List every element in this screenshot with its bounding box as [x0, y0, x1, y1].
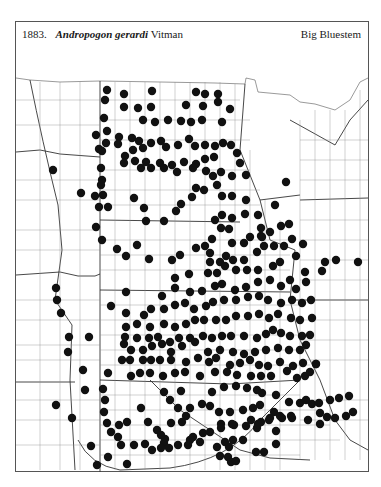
occurrence-dot: [174, 441, 182, 449]
occurrence-dot: [228, 192, 236, 200]
occurrence-dot: [172, 207, 180, 215]
occurrence-dot: [254, 211, 262, 219]
occurrence-dot: [137, 404, 145, 412]
occurrence-dot: [196, 438, 204, 446]
occurrence-dot: [321, 258, 329, 266]
occurrence-dot: [103, 86, 111, 94]
occurrence-dot: [254, 278, 262, 286]
occurrence-dot: [283, 367, 291, 375]
occurrence-dot: [262, 346, 270, 354]
occurrence-dot: [167, 419, 175, 427]
occurrence-dot: [123, 418, 131, 426]
occurrence-dot: [114, 140, 122, 148]
occurrence-dot: [99, 191, 107, 199]
occurrence-dot: [168, 161, 176, 169]
occurrence-dot: [141, 440, 149, 448]
occurrence-dot: [98, 236, 106, 244]
occurrence-dot: [225, 225, 233, 233]
occurrence-dot: [114, 433, 122, 441]
occurrence-dot: [276, 358, 284, 366]
occurrence-dot: [64, 348, 72, 356]
occurrence-dot: [218, 332, 226, 340]
occurrence-dot: [187, 118, 195, 126]
occurrence-dot: [277, 282, 285, 290]
occurrence-dot: [242, 283, 250, 291]
occurrence-dot: [139, 356, 147, 364]
occurrence-dot: [233, 149, 241, 157]
distribution-map: [0, 0, 381, 487]
occurrence-dot: [206, 249, 214, 257]
occurrence-dot: [131, 157, 139, 165]
occurrence-dot: [167, 356, 175, 364]
occurrence-dot: [299, 359, 307, 367]
occurrence-dot: [177, 200, 185, 208]
occurrence-dot: [93, 461, 101, 469]
occurrence-dot: [258, 389, 266, 397]
occurrence-dot: [232, 382, 240, 390]
occurrence-dot: [214, 90, 222, 98]
occurrence-dot: [236, 359, 244, 367]
occurrence-dot: [246, 233, 254, 241]
occurrence-dot: [349, 408, 357, 416]
occurrence-dot: [298, 299, 306, 307]
occurrence-dot: [122, 252, 130, 260]
occurrence-dot: [129, 146, 137, 154]
occurrence-dot: [292, 252, 300, 260]
occurrence-dot: [122, 309, 130, 317]
occurrence-dot: [120, 90, 128, 98]
occurrence-dot: [285, 398, 293, 406]
occurrence-dot: [103, 419, 111, 427]
occurrence-dot: [265, 314, 273, 322]
occurrence-dot: [228, 420, 236, 428]
occurrence-dot: [102, 139, 110, 147]
occurrence-dot: [120, 103, 128, 111]
occurrence-dot: [298, 332, 306, 340]
occurrence-dot: [120, 159, 128, 167]
occurrence-dot: [201, 242, 209, 250]
occurrence-dot: [136, 369, 144, 377]
occurrence-dot: [240, 350, 248, 358]
occurrence-dot: [184, 441, 192, 449]
occurrence-dot: [335, 394, 343, 402]
occurrence-dot: [225, 443, 233, 451]
occurrence-dot: [107, 428, 115, 436]
occurrence-dot: [218, 192, 226, 200]
occurrence-dot: [318, 267, 326, 275]
occurrence-dot: [201, 155, 209, 163]
occurrence-dot: [293, 374, 301, 382]
occurrence-dot: [301, 268, 309, 276]
occurrence-dot: [160, 164, 168, 172]
occurrence-dot: [146, 323, 154, 331]
occurrence-dot: [117, 441, 125, 449]
occurrence-dot: [151, 118, 159, 126]
occurrence-dot: [130, 194, 138, 202]
occurrence-dot: [120, 340, 128, 348]
occurrence-dot: [157, 444, 165, 452]
occurrence-dot: [77, 189, 85, 197]
occurrence-dot: [277, 299, 285, 307]
occurrence-dot: [178, 342, 186, 350]
occurrence-dot: [160, 320, 168, 328]
occurrence-dot: [95, 203, 103, 211]
occurrence-dot: [306, 331, 314, 339]
occurrence-dot: [139, 346, 147, 354]
occurrence-dot: [213, 443, 221, 451]
occurrence-dot: [260, 448, 268, 456]
occurrence-dot: [92, 223, 100, 231]
occurrence-dot: [191, 316, 199, 324]
occurrence-dot: [236, 159, 244, 167]
occurrence-dot: [157, 431, 165, 439]
occurrence-dot: [228, 172, 236, 180]
occurrence-dot: [139, 116, 147, 124]
occurrence-dot: [244, 312, 252, 320]
occurrence-dot: [164, 116, 172, 124]
occurrence-dot: [229, 348, 237, 356]
occurrence-dot: [147, 164, 155, 172]
occurrence-dot: [210, 153, 218, 161]
occurrence-dot: [232, 296, 240, 304]
occurrence-dot: [177, 387, 185, 395]
occurrence-dot: [189, 164, 197, 172]
occurrence-dot: [208, 334, 216, 342]
occurrence-dot: [99, 385, 107, 393]
occurrence-dot: [160, 305, 168, 313]
